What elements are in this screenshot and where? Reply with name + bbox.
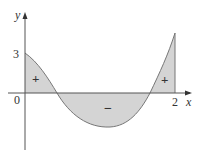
region-sign-left: + xyxy=(32,71,39,86)
region-sign-right: + xyxy=(161,72,168,87)
figure-canvas: y 3 0 2 x + − + xyxy=(0,0,200,160)
graph-svg: y 3 0 2 x + − + xyxy=(0,0,200,160)
origin-label: 0 xyxy=(14,93,20,107)
shaded-area xyxy=(25,33,175,127)
region-sign-middle: − xyxy=(104,101,112,116)
y-tick-label: 3 xyxy=(13,47,19,61)
y-axis-label: y xyxy=(14,8,21,22)
y-axis-arrow-icon xyxy=(23,12,28,19)
x-axis-label: x xyxy=(185,95,192,109)
x-tick-label: 2 xyxy=(172,95,178,109)
